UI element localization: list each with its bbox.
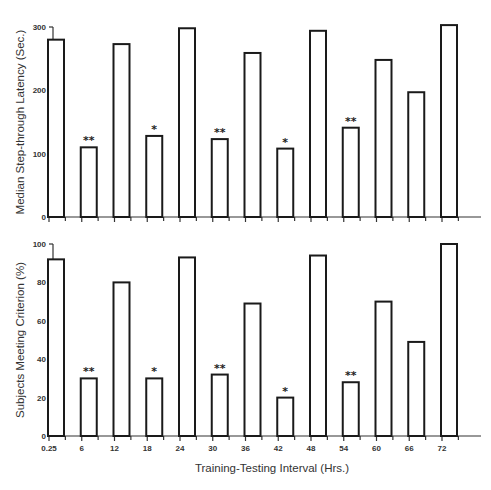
bar (441, 25, 457, 217)
y-tick-label: 300 (33, 23, 47, 32)
bar (408, 92, 424, 217)
y-tick-label: 80 (37, 278, 46, 287)
bar (179, 28, 195, 217)
bar (48, 259, 64, 436)
x-tick-label: 66 (405, 444, 414, 453)
significance-marker: ** (83, 134, 95, 147)
bar (376, 60, 392, 217)
bar (245, 304, 261, 436)
bar (310, 256, 326, 436)
x-tick-label: 60 (372, 444, 381, 453)
x-axis-label: Training-Testing Interval (Hrs.) (195, 462, 349, 474)
bar (408, 342, 424, 436)
bar (343, 128, 359, 217)
y-tick-label: 20 (37, 394, 46, 403)
bar (48, 40, 64, 217)
top-y-axis-label: Median Step-through Latency (Sec.) (14, 29, 26, 214)
x-tick-label: 54 (339, 444, 348, 453)
bottom-y-axis-label: Subjects Meeting Criterion (%) (14, 262, 26, 418)
bar (212, 375, 228, 436)
y-tick-label: 200 (33, 86, 47, 95)
bar (212, 139, 228, 217)
significance-marker: * (282, 385, 288, 398)
y-tick-label: 0 (42, 213, 47, 222)
x-tick-label: 42 (274, 444, 283, 453)
latency-chart: 0100200300******** (33, 23, 481, 222)
significance-marker: ** (345, 115, 357, 128)
bar (376, 302, 392, 436)
x-tick-label: 0.25 (41, 444, 57, 453)
bar (179, 257, 195, 436)
y-tick-label: 0 (42, 432, 47, 441)
bar (277, 149, 293, 217)
x-tick-label: 6 (80, 444, 85, 453)
bar (81, 378, 97, 436)
significance-marker: * (151, 365, 157, 378)
figure: 0100200300******** 0204060801000.2561218… (0, 0, 491, 490)
bar (114, 282, 130, 436)
bar (146, 378, 162, 436)
y-tick-label: 60 (37, 317, 46, 326)
x-tick-label: 72 (438, 444, 447, 453)
bar (114, 44, 130, 217)
bar (441, 244, 457, 436)
bar (343, 382, 359, 436)
y-tick-label: 40 (37, 355, 46, 364)
bar (277, 398, 293, 436)
x-tick-label: 24 (176, 444, 185, 453)
bar (245, 53, 261, 217)
y-tick-label: 100 (33, 240, 47, 249)
x-tick-label: 12 (110, 444, 119, 453)
x-tick-label: 18 (143, 444, 152, 453)
significance-marker: ** (214, 126, 226, 139)
bar (81, 147, 97, 217)
significance-marker: ** (214, 362, 226, 375)
x-tick-label: 30 (208, 444, 217, 453)
bar (310, 31, 326, 217)
bar (146, 136, 162, 217)
criterion-chart: 0204060801000.2561218243036424854606672*… (33, 240, 481, 453)
significance-marker: * (282, 136, 288, 149)
x-tick-label: 36 (241, 444, 250, 453)
significance-marker: * (151, 123, 157, 136)
significance-marker: ** (345, 369, 357, 382)
significance-marker: ** (83, 365, 95, 378)
x-tick-label: 48 (307, 444, 316, 453)
y-tick-label: 100 (33, 150, 47, 159)
